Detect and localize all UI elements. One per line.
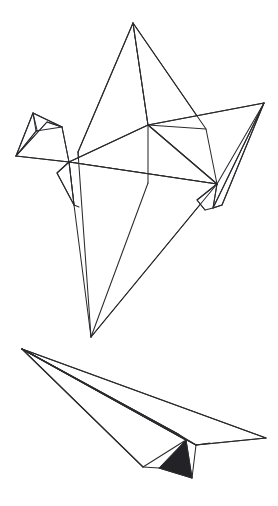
origami-illustration (0, 0, 278, 506)
artboard: origami crane paper airplane origami pap… (0, 0, 278, 506)
